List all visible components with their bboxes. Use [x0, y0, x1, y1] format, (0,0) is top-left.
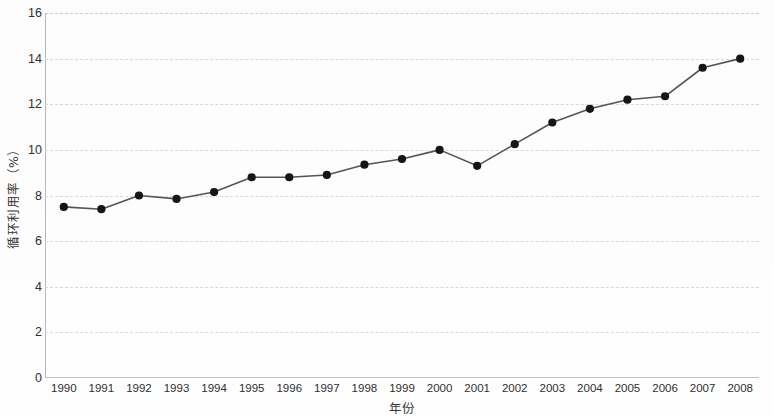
y-tick-label: 8 — [35, 189, 42, 203]
x-tick-label: 1996 — [276, 382, 302, 394]
x-tick-label: 1995 — [239, 382, 265, 394]
data-point-marker: 2002: 10.25 — [511, 140, 519, 148]
y-axis-tick-labels: 0246810121416 — [18, 0, 42, 417]
x-tick-label: 1994 — [201, 382, 227, 394]
data-point-marker: 1991: 7.4 — [97, 205, 105, 213]
x-tick-label: 2005 — [615, 382, 641, 394]
y-tick-label: 0 — [35, 371, 42, 385]
x-tick-label: 1993 — [164, 382, 190, 394]
data-point-marker: 1993: 7.85 — [172, 195, 180, 203]
x-tick-label: 2004 — [577, 382, 603, 394]
x-tick-label: 1990 — [51, 382, 77, 394]
x-tick-label: 2008 — [727, 382, 753, 394]
x-tick-label: 1997 — [314, 382, 340, 394]
y-tick-label: 6 — [35, 234, 42, 248]
x-tick-label: 2003 — [540, 382, 566, 394]
y-tick-label: 14 — [28, 52, 42, 66]
series-line — [64, 59, 740, 210]
data-point-marker: 1994: 8.15 — [210, 188, 218, 196]
y-tick-label: 10 — [28, 143, 42, 157]
data-point-marker: 1996: 8.8 — [285, 173, 293, 181]
line-chart-figure: 循环利用率（%） 0246810121416 1990: 7.51991: 7.… — [0, 0, 774, 417]
y-tick-label: 16 — [28, 6, 42, 20]
data-point-marker: 1997: 8.9 — [323, 171, 331, 179]
x-tick-label: 1999 — [389, 382, 415, 394]
x-axis-title: 年份 — [45, 398, 759, 417]
x-tick-label: 1992 — [126, 382, 152, 394]
data-point-marker: 1990: 7.5 — [60, 203, 68, 211]
x-tick-label: 1991 — [89, 382, 115, 394]
data-point-marker: 2001: 9.3 — [473, 162, 481, 170]
y-tick-label: 2 — [35, 325, 42, 339]
plot-area: 1990: 7.51991: 7.41992: 81993: 7.851994:… — [45, 13, 759, 378]
data-point-marker: 2008: 14 — [736, 55, 744, 63]
data-point-marker: 2000: 10 — [435, 146, 443, 154]
data-series-line: 1990: 7.51991: 7.41992: 81993: 7.851994:… — [45, 13, 759, 378]
data-point-marker: 1998: 9.35 — [360, 161, 368, 169]
x-tick-label: 2001 — [464, 382, 490, 394]
data-point-marker: 2005: 12.2 — [623, 96, 631, 104]
data-point-marker: 2004: 11.8 — [586, 105, 594, 113]
y-tick-label: 12 — [28, 97, 42, 111]
x-tick-label: 2000 — [427, 382, 453, 394]
x-tick-label: 2006 — [652, 382, 678, 394]
x-tick-label: 2007 — [690, 382, 716, 394]
data-point-marker: 1992: 8 — [135, 191, 143, 199]
data-point-marker: 1999: 9.6 — [398, 155, 406, 163]
data-point-marker: 2007: 13.6 — [699, 64, 707, 72]
x-tick-label: 2002 — [502, 382, 528, 394]
data-point-marker: 1995: 8.8 — [248, 173, 256, 181]
data-point-marker: 2003: 11.2 — [548, 118, 556, 126]
x-tick-label: 1998 — [352, 382, 378, 394]
data-point-marker: 2006: 12.35 — [661, 92, 669, 100]
y-tick-label: 4 — [35, 280, 42, 294]
